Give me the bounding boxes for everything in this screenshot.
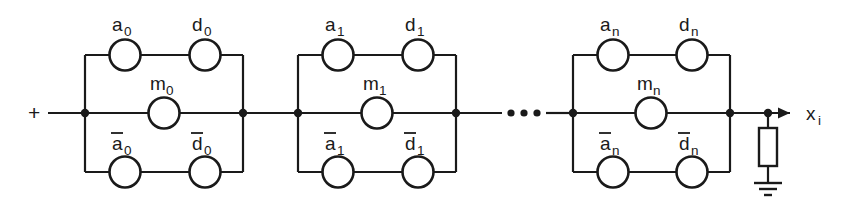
- ellipsis-dot-2: [520, 109, 527, 116]
- svg-text:n: n: [691, 143, 699, 158]
- cell-n-device-m[interactable]: [636, 98, 667, 129]
- svg-text:a: a: [325, 14, 336, 35]
- svg-text:1: 1: [379, 83, 387, 98]
- cell-n-device-a-bar[interactable]: [598, 157, 629, 188]
- cell-1-device-d[interactable]: [403, 40, 434, 71]
- svg-text:1: 1: [417, 143, 425, 158]
- cell-n-device-d[interactable]: [677, 40, 708, 71]
- svg-text:0: 0: [124, 24, 132, 39]
- svg-text:m: m: [363, 73, 379, 94]
- svg-text:a: a: [600, 133, 611, 154]
- cell-n-label-m: m n: [637, 73, 661, 98]
- ellipsis-dot-3: [533, 109, 540, 116]
- input-plus-label: +: [28, 101, 40, 124]
- cell-n-label-a: a n: [600, 14, 620, 39]
- svg-text:1: 1: [337, 143, 345, 158]
- ellipsis-dots: [507, 109, 540, 116]
- svg-text:i: i: [818, 113, 821, 128]
- cell-0-device-d[interactable]: [190, 40, 221, 71]
- cell-0-label-d-bar: d 0: [191, 133, 212, 158]
- svg-text:0: 0: [204, 24, 212, 39]
- svg-text:1: 1: [337, 24, 345, 39]
- svg-text:m: m: [637, 73, 653, 94]
- ground-icon: [754, 183, 782, 195]
- cell-0-label-a: a 0: [112, 14, 132, 39]
- cell-0-label-d: d 0: [192, 14, 212, 39]
- load-resistor[interactable]: [759, 128, 777, 166]
- cell-1-device-d-bar[interactable]: [403, 157, 434, 188]
- cell-1-device-m[interactable]: [362, 98, 393, 129]
- cell-n: a n d n m n a n d n: [569, 14, 734, 188]
- circuit-schematic-svg: + a: [0, 0, 848, 206]
- cell-n-label-d-bar: d n: [678, 133, 699, 158]
- svg-text:n: n: [612, 24, 620, 39]
- svg-text:a: a: [600, 14, 611, 35]
- cell-0-device-d-bar[interactable]: [190, 157, 221, 188]
- output-arrow-icon: [778, 108, 790, 119]
- cell-1-left-node-dot: [294, 109, 302, 117]
- cell-1-label-a: a 1: [325, 14, 345, 39]
- cell-n-device-d-bar[interactable]: [677, 157, 708, 188]
- cell-0-label-a-bar: a 0: [111, 133, 132, 158]
- svg-text:x: x: [806, 103, 816, 124]
- cell-0-device-m[interactable]: [149, 98, 180, 129]
- svg-text:0: 0: [204, 143, 212, 158]
- cell-1-device-a[interactable]: [323, 40, 354, 71]
- cell-0-device-a[interactable]: [110, 40, 141, 71]
- cell-n-label-d: d n: [679, 14, 699, 39]
- cell-1-label-m: m 1: [363, 73, 387, 98]
- svg-text:n: n: [612, 143, 620, 158]
- cell-1-label-d-bar: d 1: [404, 133, 425, 158]
- cell-1-device-a-bar[interactable]: [323, 157, 354, 188]
- svg-text:a: a: [112, 133, 123, 154]
- cell-n-device-a[interactable]: [598, 40, 629, 71]
- cell-0-left-node-dot: [81, 109, 89, 117]
- svg-text:d: d: [192, 14, 203, 35]
- cell-1-label-d: d 1: [405, 14, 425, 39]
- svg-text:d: d: [405, 133, 416, 154]
- cell-n-left-node-dot: [569, 109, 577, 117]
- svg-text:n: n: [691, 24, 699, 39]
- svg-text:0: 0: [166, 83, 174, 98]
- svg-text:d: d: [405, 14, 416, 35]
- cell-0: a 0 d 0 m 0 a 0 d 0: [81, 14, 247, 188]
- svg-text:m: m: [150, 73, 166, 94]
- svg-text:1: 1: [417, 24, 425, 39]
- output-label-x: x i: [806, 103, 821, 128]
- svg-text:d: d: [192, 133, 203, 154]
- ellipsis-dot-1: [507, 109, 514, 116]
- svg-text:d: d: [679, 133, 690, 154]
- svg-text:a: a: [325, 133, 336, 154]
- svg-text:a: a: [112, 14, 123, 35]
- circuit-diagram-canvas: + a: [0, 0, 848, 206]
- svg-text:n: n: [653, 83, 661, 98]
- cell-1-label-a-bar: a 1: [324, 133, 345, 158]
- cell-n-label-a-bar: a n: [599, 133, 620, 158]
- cell-0-device-a-bar[interactable]: [110, 157, 141, 188]
- svg-text:d: d: [679, 14, 690, 35]
- cell-0-label-m: m 0: [150, 73, 174, 98]
- cell-1: a 1 d 1 m 1 a 1 d 1: [294, 14, 460, 188]
- svg-text:0: 0: [124, 143, 132, 158]
